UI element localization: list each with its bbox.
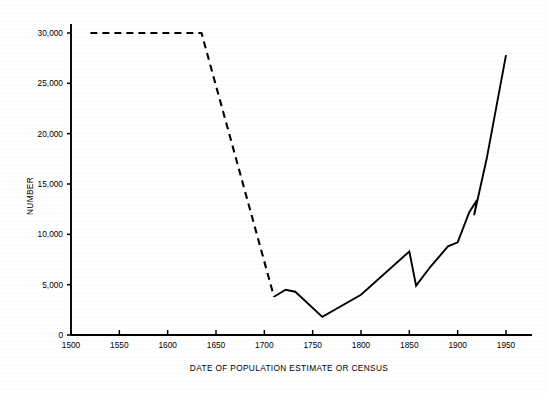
chart-canvas: 05,00010,00015,00020,00025,00030,000 150… [0,0,546,393]
y-tick-label: 0 [58,330,63,340]
x-tick-label: 1750 [303,340,322,350]
x-axis-ticks: 1500155016001650170017501800185019001950 [62,330,516,350]
x-tick-label: 1950 [497,340,516,350]
y-tick-label: 10,000 [38,229,64,239]
y-tick-label: 5,000 [42,280,63,290]
x-tick-label: 1900 [448,340,467,350]
series-line-estimated [90,33,274,297]
x-tick-label: 1600 [158,340,177,350]
data-series-group [90,33,506,317]
y-axis-ticks: 05,00010,00015,00020,00025,00030,000 [38,28,71,340]
y-axis-title: NUMBER [25,177,35,215]
y-tick-label: 15,000 [38,179,64,189]
x-tick-label: 1500 [62,340,81,350]
x-tick-label: 1700 [255,340,274,350]
population-chart: 05,00010,00015,00020,00025,00030,000 150… [0,0,546,393]
x-tick-label: 1850 [400,340,419,350]
series-line-census [274,55,506,317]
x-tick-label: 1650 [207,340,226,350]
y-tick-label: 20,000 [38,129,64,139]
x-tick-label: 1800 [352,340,371,350]
y-tick-label: 25,000 [38,78,64,88]
x-axis-title: DATE OF POPULATION ESTIMATE OR CENSUS [190,363,388,373]
y-tick-label: 30,000 [38,28,64,38]
axes-group [71,24,532,335]
x-tick-label: 1550 [110,340,129,350]
